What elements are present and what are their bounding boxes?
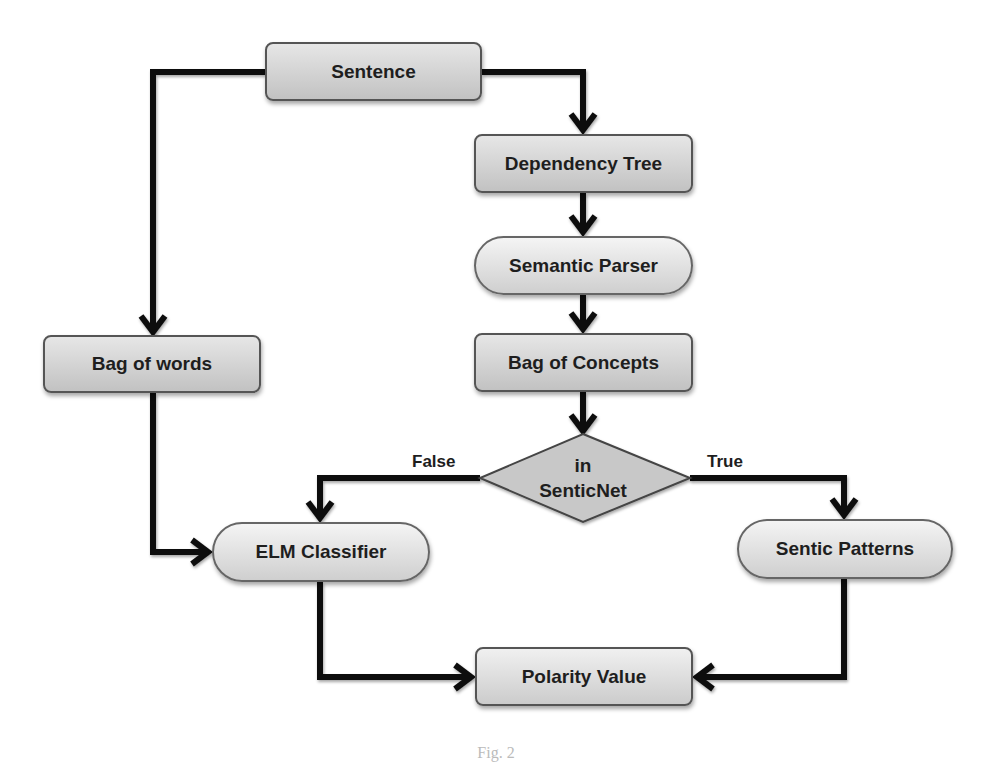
decision-label: in SenticNet bbox=[513, 453, 653, 503]
node-label: Sentence bbox=[331, 61, 415, 83]
node-sentence: Sentence bbox=[265, 42, 482, 101]
node-label: Dependency Tree bbox=[505, 153, 662, 175]
node-label: Sentic Patterns bbox=[776, 538, 914, 560]
node-semantic-parser: Semantic Parser bbox=[474, 236, 693, 295]
figure-caption: Fig. 2 bbox=[0, 744, 992, 762]
decision-label-line1: in bbox=[513, 453, 653, 478]
edge-label-false: False bbox=[412, 452, 455, 472]
node-dependency-tree: Dependency Tree bbox=[474, 134, 693, 193]
edge-bag-of-words-to-elm bbox=[153, 393, 208, 552]
node-sentic-patterns: Sentic Patterns bbox=[737, 519, 953, 579]
node-label: Bag of Concepts bbox=[508, 352, 659, 374]
edge-sentence-to-dependency-tree bbox=[482, 72, 583, 130]
node-bag-of-words: Bag of words bbox=[43, 335, 261, 393]
node-label: Semantic Parser bbox=[509, 255, 658, 277]
node-label: Polarity Value bbox=[522, 666, 647, 688]
edge-sentence-to-bag-of-words bbox=[153, 72, 265, 330]
node-label: Bag of words bbox=[92, 353, 212, 375]
edge-label-true: True bbox=[707, 452, 743, 472]
decision-label-line2: SenticNet bbox=[513, 478, 653, 503]
edge-true-to-sentic-patterns bbox=[690, 478, 844, 515]
edge-false-to-elm bbox=[320, 478, 480, 518]
node-elm-classifier: ELM Classifier bbox=[212, 522, 430, 582]
edge-elm-to-polarity bbox=[320, 582, 471, 677]
edge-sentic-patterns-to-polarity bbox=[697, 579, 844, 677]
node-polarity-value: Polarity Value bbox=[475, 647, 693, 706]
node-bag-of-concepts: Bag of Concepts bbox=[474, 333, 693, 392]
node-label: ELM Classifier bbox=[256, 541, 387, 563]
